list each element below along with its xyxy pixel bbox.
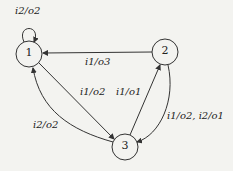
edge-2-1 [43,52,152,53]
edge-2-3 [137,65,170,142]
edge-3-1 [33,68,113,142]
node-3-label: 3 [112,139,138,152]
edge-3-2 [130,65,160,135]
edge-1-1 [22,29,35,43]
edge-label-2-1: i1/o3 [85,56,110,67]
edge-label-1-3: i1/o2 [80,86,105,97]
node-2-label: 2 [152,44,178,57]
state-diagram: 1 2 3 i2/o2 i1/o3 i1/o2 i1/o1 i1/o2, i2/… [0,0,233,171]
edge-label-3-1: i2/o2 [33,119,58,130]
edge-label-3-2: i1/o1 [116,86,141,97]
edge-label-2-3: i1/o2, i2/o1 [167,110,224,121]
node-1-label: 1 [16,46,42,59]
edge-label-1-1: i2/o2 [15,5,40,16]
